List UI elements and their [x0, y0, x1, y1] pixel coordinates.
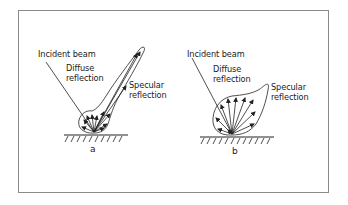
panel-b-specular-label-line2: reflection	[271, 92, 309, 102]
panel-b-caption: b	[232, 146, 238, 156]
panel-b-diffuse-label-line1: Diffuse	[213, 64, 241, 74]
panel-a-incident-beam-label: Incident beam	[38, 49, 96, 59]
panel-b-incident-beam-label: Incident beam	[187, 49, 245, 59]
panel-b-diffuse-label-line2: reflection	[213, 74, 251, 84]
panel-a-specular-label-line1: Specular	[129, 80, 164, 90]
reflection-diagram	[0, 0, 348, 205]
panel-a-specular-label-line2: reflection	[129, 90, 167, 100]
panel-a-diffuse-label-line1: Diffuse	[66, 63, 94, 73]
panel-b-specular-label-line1: Specular	[271, 82, 306, 92]
panel-a-caption: a	[90, 144, 96, 154]
panel-a-diffuse-label-line2: reflection	[66, 73, 104, 83]
